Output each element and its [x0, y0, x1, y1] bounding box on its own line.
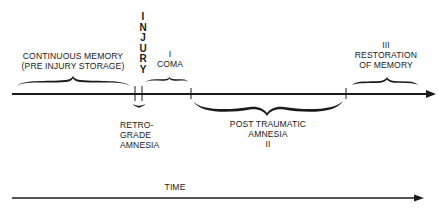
retrograde-line2: GRADE [120, 130, 160, 140]
time-label-text: TIME [165, 182, 186, 192]
continuous-memory-line1: CONTINUOUS MEMORY [18, 51, 128, 61]
main-timeline-arrowhead [426, 90, 436, 98]
coma-text: COMA [150, 59, 190, 69]
brace-coma-shape [146, 77, 188, 82]
restoration-line1: RESTORATION [350, 50, 422, 60]
injury-letter: J [138, 33, 148, 44]
timeline-diagram [0, 0, 438, 208]
injury-letter: I [138, 12, 148, 23]
brace-pta-shape [193, 101, 343, 116]
time-axis-label: TIME [155, 182, 195, 192]
retrograde-line1: RETRO- [120, 120, 160, 130]
continuous-memory-label: CONTINUOUS MEMORY (PRE INJURY STORAGE) [18, 51, 128, 71]
pta-line1: POST TRAUMATIC [218, 119, 318, 129]
injury-letter: Y [138, 65, 148, 76]
restoration-line2: OF MEMORY [350, 60, 422, 70]
brace-continuous-memory-shape [17, 76, 130, 86]
time-axis-arrowhead [414, 195, 424, 202]
brace-restoration-shape [352, 77, 418, 85]
retrograde-line3: AMNESIA [120, 140, 160, 150]
continuous-memory-line2: (PRE INJURY STORAGE) [18, 61, 128, 71]
coma-label: I COMA [150, 49, 190, 69]
retrograde-amnesia-label: RETRO- GRADE AMNESIA [120, 120, 160, 150]
post-traumatic-amnesia-label: POST TRAUMATIC AMNESIA II [218, 119, 318, 149]
pta-numeral: II [218, 139, 318, 149]
restoration-numeral: III [350, 40, 422, 50]
restoration-of-memory-label: III RESTORATION OF MEMORY [350, 40, 422, 70]
injury-letter: R [138, 54, 148, 65]
pta-line2: AMNESIA [218, 129, 318, 139]
brace-retrograde-shape [132, 103, 146, 108]
injury-label: I N J U R Y [138, 12, 148, 75]
coma-numeral: I [150, 49, 190, 59]
